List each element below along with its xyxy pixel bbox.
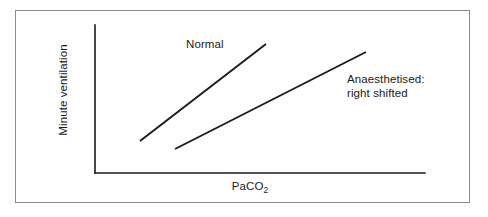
anaesthetised-response-line — [175, 52, 366, 149]
x-axis-label-subscript: 2 — [263, 185, 268, 195]
normal-curve-label: Normal — [186, 37, 224, 51]
x-axis-label-text: PaCO — [232, 180, 264, 192]
anaesthetised-label-line1: Anaesthetised: — [347, 73, 424, 85]
y-axis-label: Minute ventilation — [56, 44, 70, 135]
x-axis-label: PaCO2 — [232, 179, 269, 193]
co2-response-curve-figure: Minute ventilation PaCO2 Normal Anaesthe… — [0, 0, 488, 217]
anaesthetised-label-line2: right shifted — [347, 86, 424, 100]
anaesthetised-curve-label: Anaesthetised:right shifted — [347, 72, 424, 101]
normal-response-line — [140, 44, 266, 141]
